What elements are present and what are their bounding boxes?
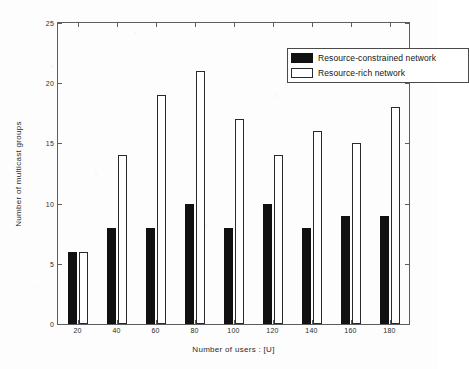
bar-resource-constrained xyxy=(68,252,77,324)
legend-item-resource-constrained: Resource-constrained network xyxy=(291,51,465,65)
legend: Resource-constrained network Resource-ri… xyxy=(287,48,469,83)
x-tick-mark-top xyxy=(234,22,235,27)
x-tick-label: 100 xyxy=(227,327,239,334)
x-tick-label: 120 xyxy=(266,327,278,334)
y-tick-mark xyxy=(57,324,62,325)
x-tick-label: 40 xyxy=(112,327,120,334)
y-tick-label: 5 xyxy=(50,260,54,267)
bar-resource-constrained xyxy=(263,204,272,324)
y-axis-title: Number of multicast groups xyxy=(14,121,23,227)
x-tick-mark-top xyxy=(390,22,391,27)
y-tick-mark-right xyxy=(405,83,410,84)
x-tick-mark-top xyxy=(195,22,196,27)
x-tick-label: 60 xyxy=(151,327,159,334)
x-tick-label: 160 xyxy=(344,327,356,334)
x-tick-mark-top xyxy=(117,22,118,27)
legend-item-resource-rich: Resource-rich network xyxy=(291,66,465,80)
y-tick-label: 10 xyxy=(46,200,54,207)
legend-swatch-light-icon xyxy=(291,68,313,78)
bar-resource-rich xyxy=(391,107,400,324)
x-tick-mark-top xyxy=(312,22,313,27)
legend-label-resource-rich: Resource-rich network xyxy=(318,68,405,78)
x-tick-mark-top xyxy=(156,22,157,27)
x-tick-label: 140 xyxy=(305,327,317,334)
y-tick-mark xyxy=(57,83,62,84)
bar-resource-rich xyxy=(79,252,88,324)
y-tick-mark xyxy=(57,264,62,265)
legend-swatch-dark-icon xyxy=(291,53,313,63)
bar-resource-constrained xyxy=(146,228,155,324)
y-tick-label: 20 xyxy=(46,80,54,87)
x-tick-mark-top xyxy=(273,22,274,27)
y-tick-label: 0 xyxy=(50,321,54,328)
x-tick-mark-top xyxy=(78,22,79,27)
y-tick-mark-right xyxy=(405,324,410,325)
x-tick-label: 180 xyxy=(383,327,395,334)
bar-resource-constrained xyxy=(380,216,389,324)
y-tick-mark-right xyxy=(405,143,410,144)
bar-resource-rich xyxy=(118,155,127,324)
plot-frame: 051015202520406080100120140160180 Resour… xyxy=(57,22,410,325)
legend-label-resource-constrained: Resource-constrained network xyxy=(318,53,436,63)
y-tick-mark xyxy=(57,23,62,24)
x-tick-label: 20 xyxy=(73,327,81,334)
bar-resource-rich xyxy=(352,143,361,324)
y-tick-mark-right xyxy=(405,264,410,265)
bar-resource-rich xyxy=(196,71,205,324)
bar-resource-constrained xyxy=(224,228,233,324)
x-axis-title: Number of users : [U] xyxy=(57,345,410,354)
y-tick-label: 25 xyxy=(46,20,54,27)
y-tick-mark xyxy=(57,204,62,205)
y-tick-mark xyxy=(57,143,62,144)
bar-resource-constrained xyxy=(341,216,350,324)
bar-resource-rich xyxy=(274,155,283,324)
y-tick-label: 15 xyxy=(46,140,54,147)
bar-resource-rich xyxy=(157,95,166,324)
bar-resource-rich xyxy=(313,131,322,324)
bar-resource-constrained xyxy=(107,228,116,324)
y-tick-mark-right xyxy=(405,204,410,205)
bar-resource-constrained xyxy=(185,204,194,324)
bar-resource-rich xyxy=(235,119,244,324)
bar-resource-constrained xyxy=(302,228,311,324)
x-tick-label: 80 xyxy=(190,327,198,334)
y-tick-mark-right xyxy=(405,23,410,24)
x-tick-mark-top xyxy=(351,22,352,27)
